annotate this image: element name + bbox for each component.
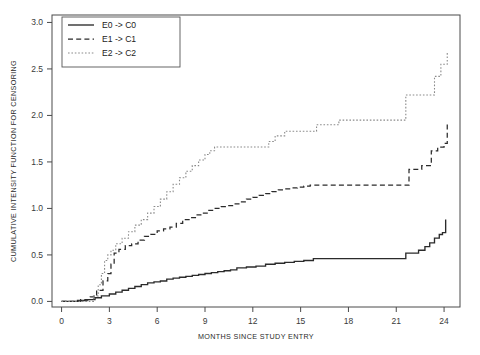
series-line-e1-c1 [62,124,448,302]
x-tick-label-24: 24 [439,316,449,326]
x-tick-label-9: 9 [203,316,208,326]
y-tick-label-1.5: 1.5 [31,157,43,167]
x-tick-label-0: 0 [59,316,64,326]
y-tick-label-0.5: 0.5 [31,250,43,260]
x-tick-label-12: 12 [248,316,258,326]
x-tick-label-3: 3 [107,316,112,326]
y-tick-label-1.0: 1.0 [31,203,43,213]
series-line-e0-c0 [62,220,446,302]
plot-frame [52,15,460,307]
y-axis-title: CUMULATIVE INTENSITY FUNCTION FOR CENSOR… [9,60,18,262]
legend-label-1: E0 -> C0 [102,20,136,30]
x-tick-label-15: 15 [296,316,306,326]
y-tick-label-3.0: 3.0 [31,17,43,27]
x-axis-title: MONTHS SINCE STUDY ENTRY [198,332,314,341]
x-tick-label-6: 6 [155,316,160,326]
y-tick-label-0.0: 0.0 [31,296,43,306]
x-tick-label-18: 18 [344,316,354,326]
series-line-e2-c2 [62,52,448,301]
legend-label-2: E1 -> C1 [102,34,136,44]
y-tick-label-2.5: 2.5 [31,64,43,74]
x-tick-label-21: 21 [392,316,402,326]
y-tick-label-2.0: 2.0 [31,110,43,120]
chart-container: 03691215182124MONTHS SINCE STUDY ENTRY0.… [0,0,480,355]
legend-label-3: E2 -> C2 [102,48,136,58]
cumulative-intensity-chart: 03691215182124MONTHS SINCE STUDY ENTRY0.… [0,0,480,355]
